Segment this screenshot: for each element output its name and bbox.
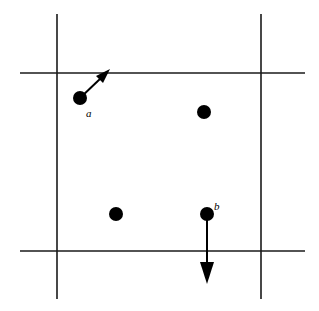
- physics-vector-diagram: a b: [0, 0, 319, 311]
- vector-b-label: b: [214, 200, 220, 212]
- vector-a-label: a: [86, 107, 92, 119]
- particle-b: [200, 207, 214, 221]
- vector-b-arrowhead: [200, 262, 214, 284]
- diagram-canvas: a b: [0, 0, 319, 311]
- particle-top-right: [197, 105, 211, 119]
- particle-bottom-left: [109, 207, 123, 221]
- particle-a: [73, 91, 87, 105]
